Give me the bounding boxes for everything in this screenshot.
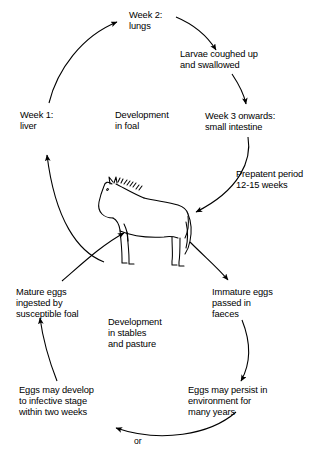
node-label-prepatent-period: Prepatent period 12-15 weeks: [236, 169, 303, 191]
node-label-week1: Week 1: liver: [20, 110, 53, 132]
node-label-eggs-persist-environment: Eggs may persist in environment for many…: [188, 385, 267, 419]
center-label-development-in-stables: Development in stables and pasture: [108, 317, 162, 351]
parasite-life-cycle-diagram: Week 2: lungs Larvae coughed up and swal…: [0, 0, 323, 460]
arrow-mature-eggs-to-foal: [62, 233, 124, 281]
connector-label-or: or: [134, 436, 142, 446]
node-label-eggs-infective-stage: Eggs may develop to infective stage with…: [19, 385, 94, 419]
node-label-mature-eggs-ingested: Mature eggs ingested by susceptible foal: [16, 287, 78, 321]
arrow-foal-to-immature-eggs: [190, 242, 228, 280]
node-label-larvae-coughed-up: Larvae coughed up and swallowed: [180, 49, 258, 71]
node-label-immature-eggs-passed: Immature eggs passed in faeces: [212, 287, 273, 321]
arrow-infective-to-mature-eggs: [40, 318, 57, 381]
node-label-week2: Week 2: lungs: [129, 10, 162, 32]
arrow-foal-to-week1: [47, 155, 104, 262]
foal-illustration: [99, 177, 191, 266]
arrow-larvae-to-week3: [232, 74, 246, 104]
center-label-development-in-foal: Development in foal: [115, 110, 169, 132]
arrow-immature-eggs-to-persist: [241, 320, 249, 381]
node-label-week3: Week 3 onwards: small intestine: [205, 111, 275, 133]
arrow-week1-to-week2: [49, 22, 117, 103]
arrow-week2-to-larvae: [176, 17, 216, 50]
